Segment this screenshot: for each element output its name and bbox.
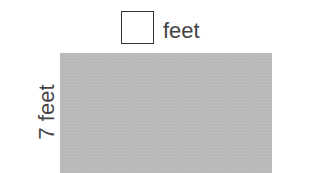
height-label: 7 feet (34, 67, 60, 157)
width-unit-label: feet (163, 18, 200, 44)
unknown-width-answer-box[interactable] (121, 11, 154, 44)
shaded-rectangle (60, 53, 272, 173)
